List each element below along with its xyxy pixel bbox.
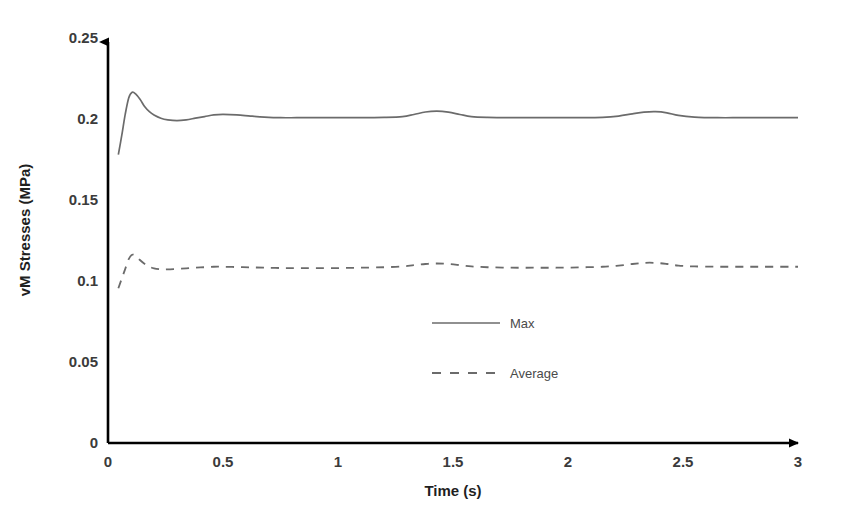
y-tick-label: 0.25	[69, 29, 98, 46]
y-tick-label: 0.05	[69, 353, 98, 370]
x-tick-label: 3	[794, 453, 802, 470]
legend-label-average: Average	[510, 366, 558, 381]
x-tick-label: 2	[564, 453, 572, 470]
y-axis-title: vM Stresses (MPa)	[16, 164, 33, 297]
y-tick-label: 0.1	[77, 272, 98, 289]
y-tick-label: 0.15	[69, 191, 98, 208]
x-tick-label: 1.5	[443, 453, 464, 470]
x-tick-label: 2.5	[673, 453, 694, 470]
chart-container: 00.050.10.150.20.25 00.511.522.53 Time (…	[0, 0, 857, 519]
x-tick-label: 0	[104, 453, 112, 470]
x-tick-label: 1	[334, 453, 342, 470]
x-tick-label: 0.5	[213, 453, 234, 470]
legend-label-max: Max	[510, 316, 535, 331]
y-tick-label: 0.2	[77, 110, 98, 127]
y-tick-label: 0	[90, 434, 98, 451]
x-axis-title: Time (s)	[424, 482, 481, 499]
line-chart: 00.050.10.150.20.25 00.511.522.53 Time (…	[0, 0, 857, 519]
